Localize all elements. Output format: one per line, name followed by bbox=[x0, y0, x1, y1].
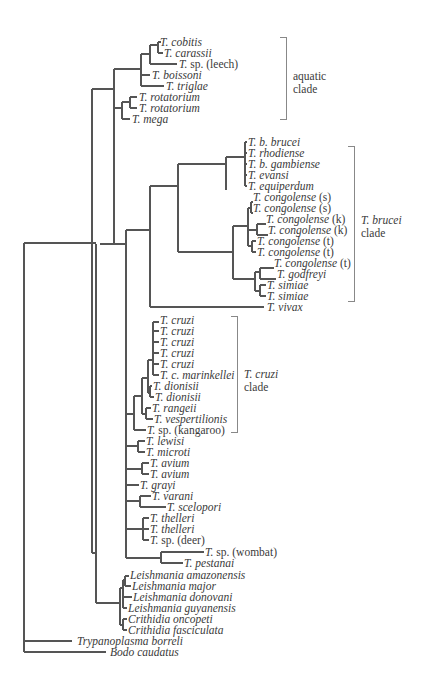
taxon-label: T. pestanai bbox=[184, 557, 234, 569]
tree-branches bbox=[24, 42, 276, 652]
taxon-label: T. sp. (deer) bbox=[150, 534, 205, 546]
clade-label-brucei: T. bruceiclade bbox=[361, 214, 402, 240]
clade-label-cruzi: T. cruziclade bbox=[244, 368, 278, 394]
taxon-label: T. mega bbox=[132, 113, 168, 125]
taxon-label: Bodo caudatus bbox=[110, 646, 179, 658]
taxon-label: T. vivax bbox=[267, 301, 303, 313]
clade-label-aquatic: aquaticclade bbox=[293, 70, 326, 96]
